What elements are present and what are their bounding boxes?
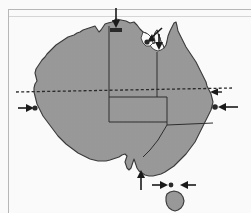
bass-strait-target-dot	[169, 183, 174, 188]
west-coast-target-dot	[32, 105, 37, 110]
marker-east-coast[interactable]	[212, 103, 238, 111]
north-coast-target-dot	[110, 28, 122, 32]
gulf-target-dot	[144, 39, 149, 44]
marker-bass-strait-east[interactable]	[180, 181, 196, 189]
marker-bass-strait-west[interactable]	[152, 181, 173, 189]
marker-west-coast[interactable]	[18, 104, 38, 112]
marker-east-coast-upper[interactable]	[210, 89, 222, 96]
east-coast-target-dot	[212, 104, 218, 110]
australia-map-figure	[0, 0, 251, 213]
tasmania-shape	[166, 191, 184, 211]
scanned-page	[0, 0, 251, 213]
